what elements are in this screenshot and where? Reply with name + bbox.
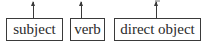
verb-box: verb <box>70 18 105 41</box>
arrow-up-icon <box>81 2 82 18</box>
subject-box: subject <box>6 18 63 41</box>
direct-object-box: direct object <box>114 18 201 41</box>
arrow-up-icon <box>156 2 157 18</box>
subject-label: subject <box>13 21 56 38</box>
verb-label: verb <box>74 21 101 38</box>
arrow-up-icon <box>33 2 34 18</box>
direct-object-label: direct object <box>120 21 195 38</box>
